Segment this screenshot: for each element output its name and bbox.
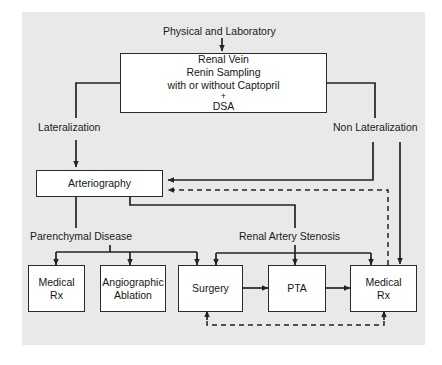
treatment-line-1: Medical [38, 276, 74, 289]
edge-main-to-lateralization [76, 83, 120, 118]
treatment-line-1: Angiographic [102, 276, 163, 289]
edge-non-lateralization-to-arteriography [168, 142, 373, 180]
treatment-line-2: Rx [377, 289, 390, 302]
treatment-box-angiographic-ablation: Angiographic Ablation [100, 265, 166, 312]
edge-parenchymal-fanout-bar [56, 245, 197, 264]
treatment-line-2: Ablation [114, 289, 152, 302]
main-box-line-5: DSA [213, 100, 235, 113]
finding-label-parenchymal-disease: Parenchymal Disease [30, 231, 132, 242]
entry-label: Physical and Laboratory [163, 26, 276, 37]
treatment-line-1: Surgery [192, 282, 229, 295]
treatment-box-pta: PTA [268, 265, 326, 312]
treatment-box-surgery: Surgery [178, 265, 243, 312]
treatment-line-2: Rx [50, 289, 63, 302]
flowchart-diagram: Physical and Laboratory Renal Vein Renin… [0, 0, 442, 365]
treatment-line-1: PTA [287, 282, 307, 295]
main-box-line-1: Renal Vein [198, 53, 249, 66]
edge-medical-rx-right-to-surgery-dashed [207, 312, 384, 325]
branch-label-non-lateralization: Non Lateralization [333, 122, 418, 133]
main-box: Renal Vein Renin Sampling with or withou… [120, 53, 327, 113]
treatment-box-medical-rx-left: Medical Rx [28, 265, 85, 312]
arteriography-label: Arteriography [68, 177, 131, 190]
main-box-line-4: + [221, 92, 226, 100]
treatment-box-medical-rx-right: Medical Rx [350, 265, 417, 312]
edge-stenosis-fanout-bar [216, 245, 371, 264]
main-box-line-3: with or without Captopril [167, 79, 279, 92]
arteriography-box: Arteriography [36, 170, 163, 197]
finding-label-renal-artery-stenosis: Renal Artery Stenosis [239, 231, 340, 242]
edge-arteriography-to-stenosis [130, 196, 295, 228]
treatment-line-1: Medical [365, 276, 401, 289]
branch-label-lateralization: Lateralization [38, 122, 100, 133]
edge-main-to-non-lateralization [327, 83, 375, 118]
main-box-line-2: Renin Sampling [186, 66, 260, 79]
